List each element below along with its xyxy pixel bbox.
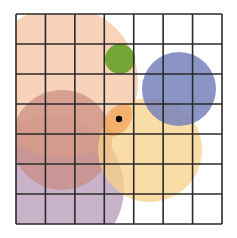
point-layer: [116, 116, 122, 122]
black-dot: [116, 116, 122, 122]
green-circle: [105, 44, 135, 74]
diagram-canvas: [0, 0, 237, 238]
grid-circles-diagram: [0, 0, 237, 238]
blue-circle: [142, 52, 216, 126]
circles-layer: [0, 6, 216, 238]
red-circle: [12, 90, 112, 190]
